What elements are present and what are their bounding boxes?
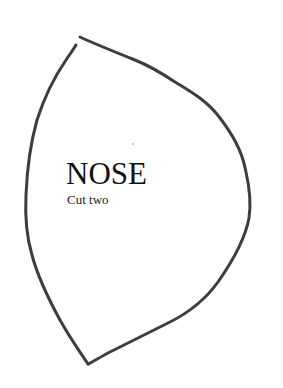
pattern-instruction: Cut two [67, 193, 109, 206]
paper-speck [132, 143, 134, 145]
nose-outline-shape [0, 0, 283, 388]
pattern-title: NOSE [66, 158, 147, 189]
pattern-sheet: NOSE Cut two [0, 0, 283, 388]
